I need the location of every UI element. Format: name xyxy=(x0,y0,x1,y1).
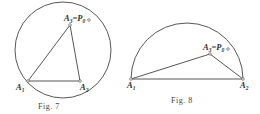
diagram-canvas: A1 A2 A3=P0 Fig. 7 A1 A2 A3=P0 Fig. 8 xyxy=(0,0,260,114)
fig8-arc xyxy=(131,23,243,79)
fig7-label-a1: A1 xyxy=(15,82,25,93)
fig8-label-a2: A2 xyxy=(239,80,249,91)
fig8-point-a3 xyxy=(209,53,212,56)
fig7-point-a3 xyxy=(69,24,72,27)
fig7-label-a3-p0: A3=P0 xyxy=(63,13,85,24)
fig7-point-p0 xyxy=(88,19,91,22)
fig8-edge-a3-a2 xyxy=(210,54,243,79)
fig7-circle xyxy=(15,2,111,98)
fig7-label-a2: A2 xyxy=(79,82,89,93)
fig7-point-a1 xyxy=(27,80,30,83)
fig8-label-a3-p0: A3=P0 xyxy=(202,42,224,53)
fig7-edge-a1-a3 xyxy=(28,25,70,81)
fig7-edge-a3-a2 xyxy=(70,25,80,81)
figure-7: A1 A2 A3=P0 Fig. 7 xyxy=(15,2,111,111)
fig8-point-p0 xyxy=(227,48,230,51)
fig8-edge-a1-a3 xyxy=(131,54,210,79)
figure-8: A1 A2 A3=P0 Fig. 8 xyxy=(126,23,249,105)
fig7-caption: Fig. 7 xyxy=(38,102,60,111)
fig8-label-a1: A1 xyxy=(126,80,136,91)
fig8-caption: Fig. 8 xyxy=(171,96,193,105)
